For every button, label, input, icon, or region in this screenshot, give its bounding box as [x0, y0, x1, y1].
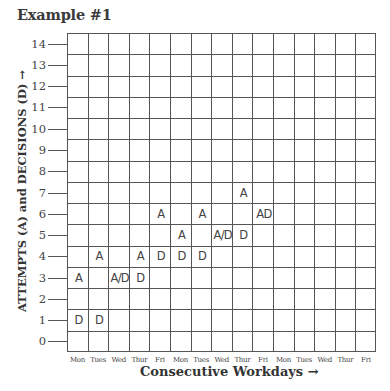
- x-tick-label: Wed: [108, 356, 129, 364]
- grid-vline: [335, 34, 336, 351]
- grid-hline: [68, 118, 375, 119]
- grid-hline: [68, 139, 375, 140]
- y-tick-label: 12: [20, 80, 46, 92]
- y-tick: [48, 341, 67, 342]
- grid-hline: [68, 182, 375, 183]
- data-mark: A/D: [109, 271, 130, 285]
- y-tick: [48, 235, 67, 236]
- x-tick-label: Tues: [88, 356, 109, 364]
- data-mark: A: [89, 249, 110, 263]
- x-tick-label: Fri: [252, 356, 273, 364]
- data-mark: A: [68, 271, 89, 285]
- y-tick-label: 13: [20, 59, 46, 71]
- y-tick: [48, 44, 67, 45]
- grid-hline: [68, 76, 375, 77]
- y-tick-label: 11: [20, 101, 46, 113]
- y-tick-label: 10: [20, 123, 46, 135]
- grid-vline: [294, 34, 295, 351]
- y-tick-label: 14: [20, 38, 46, 50]
- x-tick-label: Fri: [355, 356, 376, 364]
- grid-vline: [108, 34, 109, 351]
- data-mark: D: [150, 249, 171, 263]
- y-tick: [48, 256, 67, 257]
- data-mark: D: [171, 249, 192, 263]
- grid-hline: [68, 161, 375, 162]
- grid-vline: [129, 34, 130, 351]
- y-tick: [48, 107, 67, 108]
- y-tick-label: 9: [20, 144, 46, 156]
- x-tick-label: Tues: [191, 356, 212, 364]
- data-mark: A: [150, 207, 171, 221]
- x-axis-title: Consecutive Workdays →: [140, 364, 319, 379]
- data-mark: D: [89, 313, 110, 327]
- data-mark: D: [192, 249, 213, 263]
- grid-vline: [314, 34, 315, 351]
- grid-vline: [355, 34, 356, 351]
- y-tick: [48, 320, 67, 321]
- x-tick-label: Thur: [129, 356, 150, 364]
- y-tick-label: 5: [20, 229, 46, 241]
- data-mark: A/D: [212, 228, 233, 242]
- x-tick-label: Mon: [273, 356, 294, 364]
- y-tick-label: 0: [20, 335, 46, 347]
- y-tick: [48, 171, 67, 172]
- grid-hline: [68, 97, 375, 98]
- x-tick-label: Fri: [149, 356, 170, 364]
- grid-hline: [68, 246, 375, 247]
- y-tick: [48, 299, 67, 300]
- grid-hline: [68, 267, 375, 268]
- grid-vline: [211, 34, 212, 351]
- y-tick-label: 2: [20, 293, 46, 305]
- y-tick: [48, 214, 67, 215]
- x-tick-label: Wed: [314, 356, 335, 364]
- y-tick: [48, 278, 67, 279]
- grid-hline: [68, 331, 375, 332]
- grid-hline: [68, 54, 375, 55]
- data-mark: A: [130, 249, 151, 263]
- y-tick-label: 1: [20, 314, 46, 326]
- data-mark: D: [68, 313, 89, 327]
- x-tick-label: Wed: [211, 356, 232, 364]
- y-tick-label: 7: [20, 187, 46, 199]
- chart-title: Example #1: [17, 6, 112, 23]
- y-tick: [48, 150, 67, 151]
- y-tick-label: 8: [20, 165, 46, 177]
- grid-vline: [170, 34, 171, 351]
- y-tick-label: 4: [20, 250, 46, 262]
- x-tick-label: Mon: [67, 356, 88, 364]
- grid-vline: [149, 34, 150, 351]
- data-mark: D: [130, 271, 151, 285]
- grid-hline: [68, 309, 375, 310]
- x-tick-label: Tues: [294, 356, 315, 364]
- x-tick-label: Mon: [170, 356, 191, 364]
- data-mark: D: [233, 228, 254, 242]
- grid-hline: [68, 203, 375, 204]
- x-tick-label: Thur: [335, 356, 356, 364]
- y-tick: [48, 86, 67, 87]
- y-tick-label: 3: [20, 272, 46, 284]
- grid-vline: [88, 34, 89, 351]
- y-tick: [48, 193, 67, 194]
- y-tick-label: 6: [20, 208, 46, 220]
- data-mark: A: [171, 228, 192, 242]
- grid-hline: [68, 288, 375, 289]
- y-tick: [48, 129, 67, 130]
- x-tick-label: Thur: [232, 356, 253, 364]
- data-mark: A: [233, 186, 254, 200]
- data-mark: AD: [253, 207, 274, 221]
- grid-hline: [68, 224, 375, 225]
- grid-vline: [273, 34, 274, 351]
- y-tick: [48, 65, 67, 66]
- data-mark: A: [192, 207, 213, 221]
- chart-grid: ADADA/DADADADADA/DADAD: [67, 33, 376, 352]
- grid-vline: [191, 34, 192, 351]
